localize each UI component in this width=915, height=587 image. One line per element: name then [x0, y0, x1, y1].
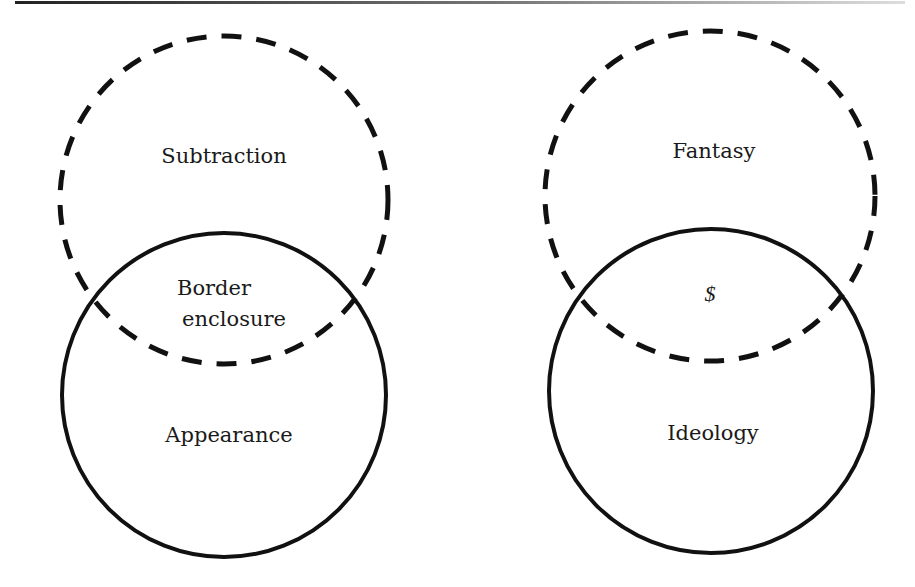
subtraction-label: Subtraction: [161, 144, 286, 168]
ideology-solid-circle: [549, 229, 873, 553]
right-venn: Fantasy $ Ideology: [545, 31, 875, 553]
barred-subject-symbol: $: [705, 281, 716, 306]
venn-diagram: Subtraction Border enclosure Appearance …: [0, 0, 915, 587]
ideology-label: Ideology: [667, 421, 759, 445]
left-venn: Subtraction Border enclosure Appearance: [60, 36, 388, 557]
fantasy-label: Fantasy: [673, 139, 756, 163]
enclosure-label: enclosure: [182, 307, 286, 331]
top-rule: [15, 1, 905, 4]
fantasy-dashed-circle: [545, 31, 875, 361]
appearance-label: Appearance: [164, 423, 292, 447]
border-label: Border: [177, 276, 252, 300]
